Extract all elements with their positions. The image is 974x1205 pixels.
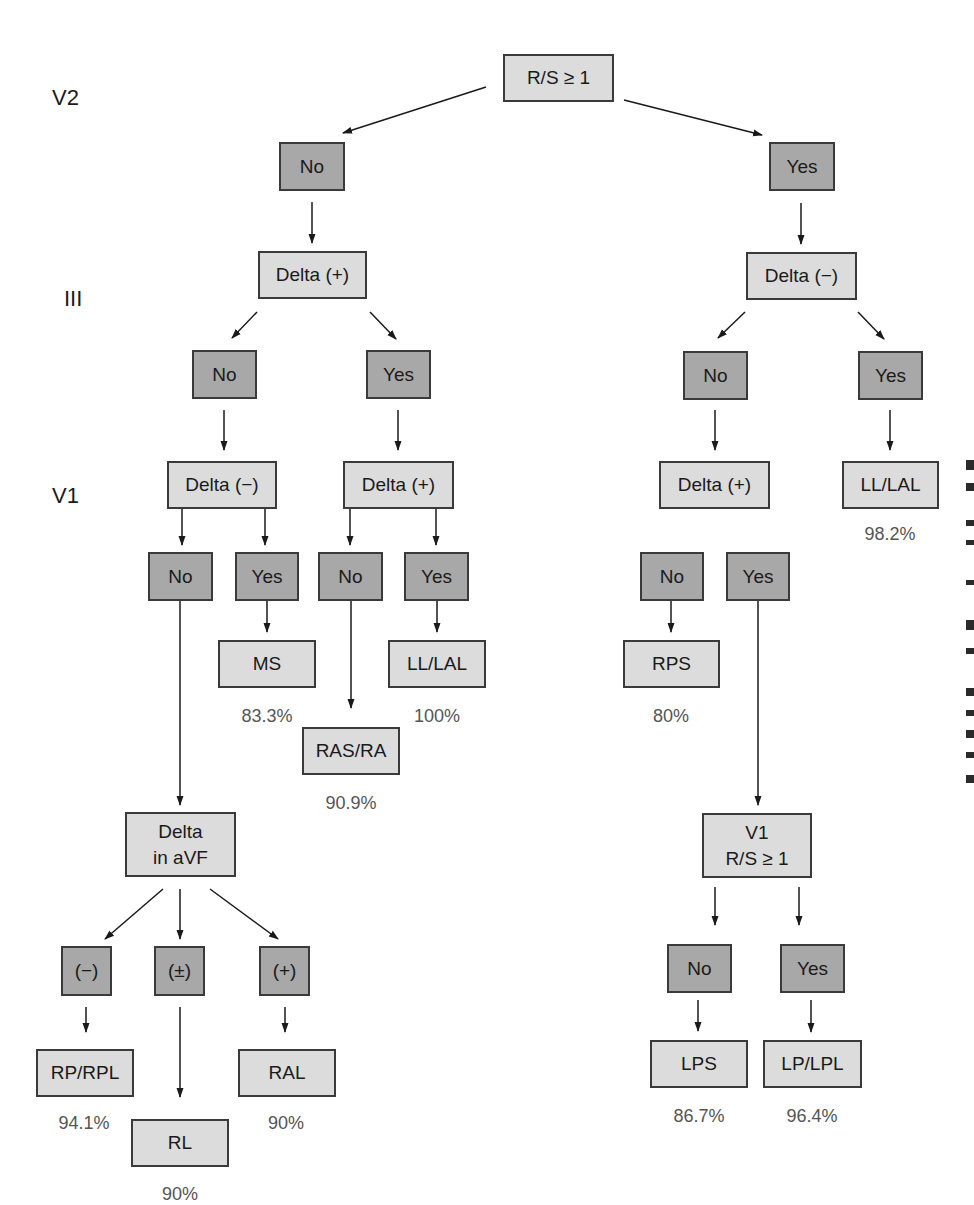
node-iii-delta-positive: Delta (+): [258, 251, 367, 299]
pct-rl: 90%: [130, 1184, 230, 1205]
node-result-ll-lal-left: LL/LAL: [388, 640, 486, 688]
lead-label-iii: III: [64, 286, 82, 312]
pct-rps: 80%: [621, 706, 721, 727]
node-v2-yes: Yes: [769, 142, 835, 191]
node-v2-no: No: [279, 142, 345, 191]
pct-lp-lpl: 96.4%: [762, 1106, 862, 1127]
node-result-lp-lpl: LP/LPL: [763, 1040, 862, 1088]
pct-lps: 86.7%: [649, 1106, 749, 1127]
node-iii-delta-negative: Delta (−): [746, 252, 857, 300]
clipped-glyph: [966, 483, 974, 491]
node-v1-a-yes: Yes: [235, 552, 299, 601]
node-result-rp-rpl: RP/RPL: [36, 1049, 134, 1097]
node-v1-rs-ratio: V1 R/S ≥ 1: [702, 813, 812, 878]
node-v1-a-no: No: [148, 552, 213, 601]
node-v1-rs-yes: Yes: [780, 944, 845, 993]
clipped-glyph: [966, 520, 974, 526]
clipped-glyph: [966, 580, 974, 585]
node-v1-b-no: No: [318, 552, 383, 601]
node-result-ras-ra: RAS/RA: [302, 727, 400, 775]
pct-ms: 83.3%: [217, 706, 317, 727]
node-iii-right-yes: Yes: [858, 351, 923, 400]
lead-label-v2: V2: [52, 85, 79, 111]
node-iii-left-no: No: [192, 350, 257, 399]
clipped-glyph: [966, 460, 974, 470]
node-result-ms: MS: [218, 640, 316, 688]
clipped-glyph: [966, 730, 974, 738]
clipped-glyph: [966, 710, 974, 716]
node-root-rs-ratio: R/S ≥ 1: [503, 54, 614, 102]
node-v1-delta-positive-right: Delta (+): [659, 461, 770, 509]
clipped-glyph: [966, 752, 974, 758]
node-v1-b-yes: Yes: [404, 552, 469, 601]
pct-ral: 90%: [236, 1113, 336, 1134]
clipped-glyph: [966, 775, 974, 783]
node-delta-in-avf: Delta in aVF: [125, 812, 236, 877]
pct-ll-lal-left: 100%: [387, 706, 487, 727]
clipped-glyph: [966, 540, 974, 545]
clipped-glyph: [966, 620, 974, 630]
node-avf-positive: (+): [259, 946, 310, 996]
pct-ll-lal-right: 98.2%: [840, 524, 940, 545]
node-v1-c-no: No: [640, 552, 704, 601]
pct-rp-rpl: 94.1%: [34, 1113, 134, 1134]
node-iii-right-no: No: [683, 351, 748, 400]
node-v1-delta-positive-left: Delta (+): [343, 461, 454, 509]
node-v1-c-yes: Yes: [726, 552, 790, 601]
node-v1-delta-negative: Delta (−): [167, 461, 277, 509]
node-iii-left-yes: Yes: [366, 350, 431, 399]
node-avf-negative: (−): [61, 946, 112, 996]
node-avf-plus-minus: (±): [154, 946, 205, 996]
clipped-glyph: [966, 648, 974, 654]
node-v1-rs-no: No: [667, 944, 732, 993]
clipped-glyph: [966, 688, 974, 696]
node-result-rl: RL: [131, 1119, 229, 1167]
node-result-ral: RAL: [238, 1049, 336, 1097]
lead-label-v1: V1: [52, 483, 79, 509]
pct-ras-ra: 90.9%: [301, 793, 401, 814]
node-result-lps: LPS: [650, 1040, 748, 1088]
node-result-ll-lal-right: LL/LAL: [842, 461, 939, 509]
node-result-rps: RPS: [623, 640, 720, 688]
